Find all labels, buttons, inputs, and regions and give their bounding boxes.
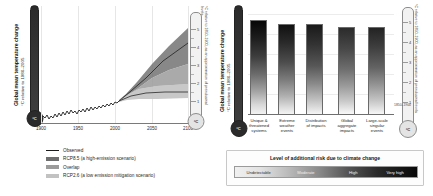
risk-label-undetectable: Undetectable [247, 170, 271, 175]
right-far-axis-label: °C relative to 1850–1900, as an approxim… [414, 4, 418, 120]
tick-minor [191, 74, 194, 75]
left-right-axis-label: °C relative to 1850–1900, as an approxim… [200, 6, 208, 118]
right-far-axis-label-text: °C relative to 1850–1900, as an approxim… [414, 4, 418, 116]
y-tick-label: 3 [409, 60, 411, 65]
temperature-timeseries-panel: Global mean temperature change °C relati… [0, 0, 222, 196]
left-y-axis-title: Global mean temperature change °C relati… [14, 6, 25, 106]
timeseries-plot-area [41, 6, 189, 124]
timeseries-legend: Observed RCP8.5 (a high-emission scenari… [46, 146, 214, 180]
left-dark-thermometer: °C [30, 5, 39, 127]
thermometer-bulb: °C [399, 120, 417, 138]
tick-major [403, 42, 408, 43]
tick-minor [403, 72, 406, 73]
legend-item-overlap: Overlap [46, 163, 214, 172]
risk-label-very-high: Very high [387, 170, 404, 175]
right-y-axis-title-line2: °C relative to 1986–2005 [226, 12, 231, 112]
legend-swatch-rcp85-icon [46, 157, 59, 161]
tick-minor [191, 92, 194, 93]
legend-item-observed: Observed [46, 146, 214, 155]
tick-major [191, 65, 196, 66]
tick-minor [191, 56, 194, 57]
legend-swatch-observed-icon [46, 150, 59, 151]
preindustrial-baseline-note: 1850–1900 [394, 103, 411, 107]
ember-baseline [248, 114, 394, 115]
risk-level-legend: Level of additional risk due to climate … [226, 150, 424, 186]
tick-minor [403, 32, 406, 33]
tick-major [191, 83, 196, 84]
x-axis-ticks: 1900 1950 2000 2050 2100 [41, 126, 201, 136]
tick-major [403, 82, 408, 83]
tick-minor [191, 38, 194, 39]
legend-swatch-rcp26-icon [46, 174, 59, 178]
ember-plot-area [248, 8, 394, 115]
x-axis-line [41, 123, 189, 124]
ember-label-global-aggregate-impacts: Global aggregate impacts [332, 118, 362, 133]
legend-item-rcp85: RCP8.5 (a high-emission scenario) [46, 155, 214, 164]
tick-major [191, 101, 196, 102]
ember-label-distribution-of-impacts: Distribution of impacts [301, 118, 331, 128]
legend-swatch-overlap-icon [46, 165, 59, 169]
legend-label: RCP2.6 (a low emission mitigation scenar… [63, 173, 155, 178]
legend-item-rcp26: RCP2.6 (a low emission mitigation scenar… [46, 172, 214, 181]
ember-column-extreme-weather-events [278, 24, 295, 115]
gridline [248, 14, 394, 15]
ember-column-global-aggregate-impacts [338, 27, 355, 115]
y-tick-label: 4 [409, 40, 411, 45]
legend-label: Observed [63, 148, 83, 153]
ember-label-extreme-weather-events: Extreme weather events [272, 118, 302, 133]
observed-line [43, 101, 119, 119]
risk-gradient-bar: Undetectable Moderate High Very high [234, 166, 418, 178]
legend-label: RCP8.5 (a high-emission scenario) [63, 156, 136, 161]
ember-label-unique-threatened-systems: Unique & threatened systems [244, 118, 274, 133]
right-dark-thermometer: °C [234, 5, 243, 137]
y-tick-label: 5 [409, 20, 411, 25]
left-y-axis-title-line2: °C relative to 1986–2005 [20, 6, 25, 106]
risk-label-moderate: Moderate [297, 170, 314, 175]
x-tick-label: 1900 [36, 126, 46, 131]
timeseries-series-group [41, 6, 189, 124]
x-tick-label: 2000 [110, 126, 120, 131]
y-tick-label: 2 [409, 80, 411, 85]
ember-category-labels: Unique & threatened systems Extreme weat… [248, 118, 398, 144]
risk-label-high: High [349, 170, 357, 175]
ember-column-distribution-of-impacts [306, 24, 323, 115]
tick-major [403, 62, 408, 63]
legend-label: Overlap [63, 165, 79, 170]
risk-legend-title: Level of additional risk due to climate … [227, 155, 423, 161]
tick-major [403, 22, 408, 23]
ember-label-large-scale-singular-events: Large-scale singular events [362, 118, 392, 133]
tick-major [191, 29, 196, 30]
x-tick-label: 2050 [147, 126, 157, 131]
tick-major [191, 47, 196, 48]
tick-minor [403, 52, 406, 53]
ipcc-risk-figure: Global mean temperature change °C relati… [0, 0, 433, 196]
tick-minor [403, 92, 406, 93]
right-y-axis-title: Global mean temperature change °C relati… [220, 12, 231, 112]
x-tick-label: 1950 [73, 126, 83, 131]
thermometer-tube [234, 5, 243, 123]
right-panel-scale-thermometer: 5 4 3 2 1 °C [402, 7, 414, 137]
left-right-axis-label-text: °C relative to 1850–1900, as an approxim… [200, 6, 208, 114]
ember-column-unique-threatened-systems [250, 20, 267, 115]
thermometer-tube [30, 5, 39, 113]
ember-column-large-scale-singular-events [368, 27, 385, 115]
